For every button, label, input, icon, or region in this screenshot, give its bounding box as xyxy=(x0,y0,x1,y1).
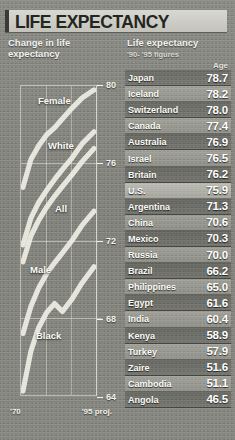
life-expectancy-value: 70.3 xyxy=(206,232,228,244)
country-name: Australia xyxy=(128,136,167,147)
life-expectancy-value: 78.0 xyxy=(206,104,228,116)
y-tick-80: 80 xyxy=(97,81,116,90)
country-name: Kenya xyxy=(128,330,155,341)
series-label-black: Black xyxy=(36,330,61,341)
country-name: India xyxy=(128,313,149,324)
table-row: Mexico70.3 xyxy=(125,231,231,247)
life-expectancy-value: 70.0 xyxy=(206,249,228,261)
y-tick-64: 64 xyxy=(97,393,116,402)
life-expectancy-value: 66.2 xyxy=(206,265,228,277)
country-name: Mexico xyxy=(128,233,159,244)
table-row: Egypt61.6 xyxy=(125,295,231,311)
plot-area xyxy=(20,85,96,396)
table-row: China70.6 xyxy=(125,215,231,231)
life-expectancy-value: 46.5 xyxy=(206,393,228,405)
series-label-female: Female xyxy=(38,95,71,106)
gridline-68 xyxy=(21,318,102,319)
right-panel-heading: Life expectancy xyxy=(127,38,232,49)
y-tick-68: 68 xyxy=(97,315,116,324)
page-title: LIFE EXPECTANCY xyxy=(15,11,169,32)
right-panel-note: '90- '95 figures xyxy=(127,50,179,59)
gridline-72 xyxy=(21,241,102,242)
table-row: Japan78.7 xyxy=(125,70,231,86)
y-tick-72: 72 xyxy=(97,237,116,246)
country-name: Angola xyxy=(128,394,159,405)
x-axis-label-start: '70 xyxy=(10,407,21,416)
country-name: Philippines xyxy=(128,281,176,292)
life-expectancy-value: 51.6 xyxy=(206,361,228,373)
life-expectancy-value: 61.6 xyxy=(206,297,228,309)
country-name: Canada xyxy=(128,120,161,131)
left-panel-heading: Change in life expectancy xyxy=(8,38,113,59)
table-row: Kenya58.9 xyxy=(125,328,231,344)
x-axis-label-end: '95 proj. xyxy=(82,407,112,416)
title-band: LIFE EXPECTANCY xyxy=(5,10,227,32)
series-label-male: Male xyxy=(30,264,51,275)
table-row: Zaire51.6 xyxy=(125,360,231,376)
gridline-vertical-1 xyxy=(46,86,47,395)
life-expectancy-value: 51.1 xyxy=(206,377,228,389)
table-row: Argentina71.3 xyxy=(125,199,231,215)
life-expectancy-value: 71.3 xyxy=(206,200,228,212)
life-expectancy-value: 76.2 xyxy=(206,168,228,180)
series-path-black xyxy=(23,267,94,391)
series-label-all: All xyxy=(55,203,67,214)
life-expectancy-value: 78.7 xyxy=(206,72,228,84)
life-expectancy-value: 76.9 xyxy=(206,136,228,148)
country-name: Cambodia xyxy=(128,378,172,389)
gridline-vertical-2 xyxy=(71,86,72,395)
country-name: Turkey xyxy=(128,346,157,357)
table-row: Switzerland78.0 xyxy=(125,102,231,118)
table-row: Israel76.5 xyxy=(125,150,231,166)
table-row: Philippines65.0 xyxy=(125,279,231,295)
country-name: Britain xyxy=(128,169,157,180)
life-expectancy-value: 57.9 xyxy=(206,345,228,357)
table-row: Turkey57.9 xyxy=(125,344,231,360)
country-name: Brazil xyxy=(128,265,153,276)
life-expectancy-value: 75.9 xyxy=(206,184,228,196)
country-name: China xyxy=(128,217,153,228)
country-name: Argentina xyxy=(128,201,170,212)
life-expectancy-value: 60.4 xyxy=(206,313,228,325)
table-row: Angola46.5 xyxy=(125,392,231,408)
life-expectancy-value: 65.0 xyxy=(206,281,228,293)
table-row: Cambodia51.1 xyxy=(125,376,231,392)
series-label-white: White xyxy=(48,140,74,151)
infographic-root: LIFE EXPECTANCY Change in life expectanc… xyxy=(0,0,235,440)
life-expectancy-value: 78.2 xyxy=(206,88,228,100)
country-name: Iceland xyxy=(128,88,159,99)
table-row: Australia76.9 xyxy=(125,134,231,150)
gridline-76 xyxy=(21,163,102,164)
country-name: Japan xyxy=(128,72,154,83)
age-column-header: Age xyxy=(127,61,228,70)
table-row: Brazil66.2 xyxy=(125,263,231,279)
country-name: Israel xyxy=(128,153,152,164)
country-name: Russia xyxy=(128,249,158,260)
country-name: Egypt xyxy=(128,297,153,308)
life-expectancy-value: 70.6 xyxy=(206,216,228,228)
table-row: U.S.75.9 xyxy=(125,183,231,199)
line-chart: 80 76 72 68 64 '70 '95 proj. Female Whit… xyxy=(8,78,116,418)
life-expectancy-value: 58.9 xyxy=(206,329,228,341)
life-expectancy-value: 77.4 xyxy=(206,120,228,132)
y-tick-76: 76 xyxy=(97,159,116,168)
country-name: Switzerland xyxy=(128,104,178,115)
life-expectancy-table: Japan78.7Iceland78.2Switzerland78.0Canad… xyxy=(125,70,231,408)
country-name: U.S. xyxy=(128,185,146,196)
country-name: Zaire xyxy=(128,362,150,373)
table-row: Britain76.2 xyxy=(125,167,231,183)
table-row: India60.4 xyxy=(125,311,231,327)
life-expectancy-value: 76.5 xyxy=(206,152,228,164)
table-row: Iceland78.2 xyxy=(125,86,231,102)
table-row: Russia70.0 xyxy=(125,247,231,263)
table-row: Canada77.4 xyxy=(125,118,231,134)
